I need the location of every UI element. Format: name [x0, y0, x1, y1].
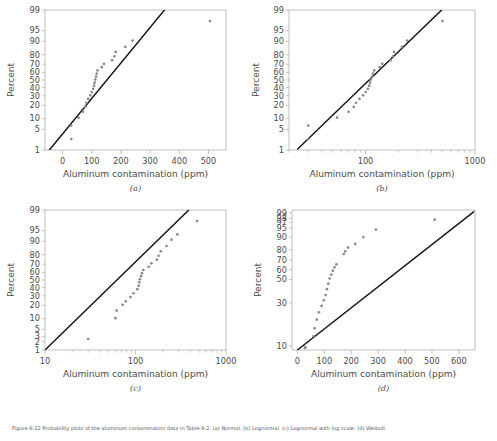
data-point [82, 110, 85, 113]
data-point [159, 250, 162, 253]
data-point [326, 288, 329, 291]
data-point [70, 138, 73, 141]
data-point [372, 72, 375, 75]
x-tick-label: 500 [201, 156, 217, 166]
data-point [364, 91, 367, 94]
panel-a-normal-probability-plot: 9995908070605040302010510100200300400500… [0, 0, 248, 200]
data-point [93, 84, 96, 87]
y-tick-label: 5 [279, 124, 284, 134]
data-point [129, 296, 132, 299]
data-point [352, 106, 355, 109]
panel-d-svg: 9998979590807060503010010020030040050060… [249, 200, 497, 400]
data-point [406, 39, 409, 42]
y-tick-label: 90 [274, 36, 284, 46]
y-axis-label: Percent [251, 62, 261, 97]
y-tick-label: 1 [279, 145, 284, 155]
data-point [304, 346, 307, 349]
data-point [336, 116, 339, 119]
x-axis-label: Aluminum contamination (ppm) [309, 169, 454, 179]
data-point [89, 94, 92, 97]
y-tick-label: 95 [274, 25, 284, 35]
y-tick-label: 60 [277, 265, 287, 275]
data-point [392, 55, 395, 58]
data-point [315, 318, 318, 321]
data-point [141, 272, 144, 275]
x-tick-label: 100 [316, 356, 332, 366]
y-tick-label: 95 [30, 225, 40, 235]
data-point [114, 51, 117, 54]
reference-line [297, 212, 473, 350]
data-point [332, 269, 335, 272]
y-tick-label: 30 [277, 298, 287, 308]
data-point [330, 273, 333, 276]
panel-d-canvas: 9998979590807060503010010020030040050060… [249, 200, 497, 400]
y-tick-label: 80 [30, 250, 40, 260]
data-point [366, 87, 369, 90]
data-point [347, 110, 350, 113]
data-point [87, 338, 90, 341]
y-tick-label: 99 [30, 5, 40, 15]
y-tick-label: 90 [277, 232, 287, 242]
data-point [347, 246, 350, 249]
reference-line [45, 206, 193, 350]
data-point [113, 55, 116, 58]
data-point [393, 51, 396, 54]
data-point [362, 94, 365, 97]
x-tick-label: 1000 [216, 356, 237, 366]
x-axis-label: Aluminum contamination (ppm) [63, 169, 208, 179]
panel-a-svg: 9995908070605040302010510100200300400500… [0, 0, 248, 200]
y-tick-label: 50 [277, 274, 287, 284]
panel-b-canvas: 9995908070605040302010511001000Aluminum … [249, 0, 497, 200]
y-tick-label: 30 [30, 291, 40, 301]
x-tick-label: 100 [128, 356, 144, 366]
data-point [176, 233, 179, 236]
data-point [327, 282, 330, 285]
panel-b-lognormal-probability-plot: 9995908070605040302010511001000Aluminum … [249, 0, 497, 200]
panel-a-canvas: 9995908070605040302010510100200300400500… [0, 0, 248, 200]
data-point [114, 317, 117, 320]
y-tick-label: 90 [30, 36, 40, 46]
data-point [94, 78, 97, 81]
y-tick-label: 10 [277, 341, 287, 351]
data-point [320, 305, 323, 308]
data-point [150, 262, 153, 265]
x-tick-label: 0 [60, 156, 65, 166]
y-tick-label: 10 [274, 113, 284, 123]
data-point [103, 62, 106, 65]
y-tick-label: 99 [30, 205, 40, 215]
data-point [433, 218, 436, 221]
data-point [124, 45, 127, 48]
data-point [358, 98, 361, 101]
y-tick-label: 20 [30, 300, 40, 310]
data-point [371, 75, 374, 78]
data-point [170, 238, 173, 241]
data-point [354, 243, 357, 246]
x-axis-label: Aluminum contamination (ppm) [63, 369, 208, 379]
panel-b-svg: 9995908070605040302010511001000Aluminum … [249, 0, 497, 200]
reference-line [49, 4, 169, 150]
y-tick-label: 20 [30, 100, 40, 110]
data-point [307, 138, 310, 141]
data-point [139, 278, 142, 281]
data-point [124, 300, 127, 303]
data-point [84, 106, 87, 109]
data-point [92, 87, 95, 90]
data-point [85, 101, 88, 104]
y-tick-label: 30 [274, 91, 284, 101]
data-point [138, 281, 141, 284]
data-point [90, 91, 93, 94]
data-point [95, 72, 98, 75]
panel-label: (d) [378, 383, 390, 393]
panel-c-canvas: 99959080706050403020105321101001000Alumi… [0, 200, 248, 400]
x-tick-label: 200 [113, 156, 129, 166]
data-point [362, 236, 365, 239]
data-point [131, 39, 134, 42]
x-tick-label: 200 [343, 356, 359, 366]
data-point [441, 20, 444, 23]
data-point [115, 309, 118, 312]
y-axis-label: Percent [6, 62, 16, 97]
y-tick-label: 30 [30, 91, 40, 101]
data-point [307, 124, 310, 127]
data-point [121, 303, 124, 306]
data-point [344, 250, 347, 253]
